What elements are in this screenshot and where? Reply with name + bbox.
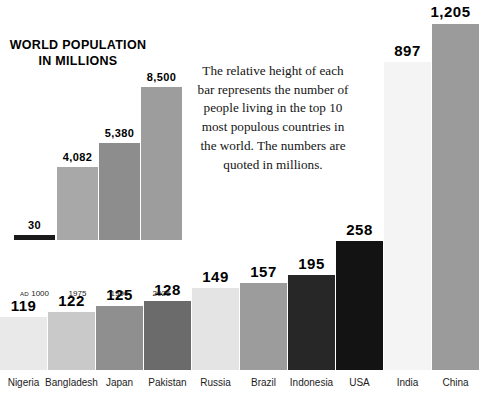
inset-bar-group-2025: 8,500 <box>141 87 182 240</box>
bar-india <box>384 62 431 370</box>
inset-axis-ad-prefix: AD <box>20 290 29 297</box>
inset-axis-label-ad1000: AD 1000 <box>8 290 61 298</box>
bar-china <box>432 24 479 370</box>
bar-japan <box>96 306 143 370</box>
bar-bangladesh <box>48 312 95 370</box>
bar-label-china: China <box>426 378 479 388</box>
bar-group-china: 1,205 China <box>432 24 479 370</box>
bar-usa <box>336 241 383 370</box>
bar-brazil <box>240 283 287 370</box>
bar-value-brazil: 157 <box>240 264 287 279</box>
bar-value-india: 897 <box>384 43 431 58</box>
bar-group-japan: 125 Japan <box>96 306 143 370</box>
bar-russia <box>192 288 239 370</box>
bar-group-bangladesh: 122 Bangladesh <box>48 312 95 370</box>
bar-group-pakistan: 128 Pakistan <box>144 301 191 370</box>
bar-pakistan <box>144 301 191 370</box>
inset-bar-2025 <box>141 87 182 240</box>
bar-nigeria <box>0 317 47 370</box>
bar-value-indonesia: 195 <box>288 256 335 271</box>
inset-bar-ad1000 <box>14 235 55 240</box>
inset-title-line-1: WORLD POPULATION <box>10 38 147 52</box>
bar-value-china: 1,205 <box>418 4 479 19</box>
inset-bar-group-ad1000: 30 <box>14 235 55 240</box>
bar-group-brazil: 157 Brazil <box>240 283 287 370</box>
bar-indonesia <box>288 275 335 370</box>
inset-axis-year-1000: 1000 <box>31 289 49 298</box>
inset-bar-1990 <box>99 143 140 240</box>
bar-group-india: 897 India <box>384 62 431 370</box>
inset-plot-area: 30 4,082 5,380 8,500 AD 1000 1975 1990 2… <box>8 84 160 240</box>
bar-value-nigeria: 119 <box>0 298 47 313</box>
inset-bar-value-ad1000: 30 <box>4 220 65 231</box>
inset-axis-label-2025: 2025 <box>141 290 182 298</box>
bar-value-russia: 149 <box>192 269 239 284</box>
inset-world-population-chart: WORLD POPULATION IN MILLIONS 30 4,082 5,… <box>8 38 160 270</box>
bar-group-russia: 149 Russia <box>192 288 239 370</box>
inset-chart-title: WORLD POPULATION IN MILLIONS <box>8 38 148 69</box>
inset-title-line-2: IN MILLIONS <box>8 54 148 70</box>
bar-value-usa: 258 <box>336 222 383 237</box>
inset-bar-group-1990: 5,380 <box>99 143 140 240</box>
inset-bar-1975 <box>57 167 98 240</box>
inset-bar-group-1975: 4,082 <box>57 167 98 240</box>
bar-group-indonesia: 195 Indonesia <box>288 275 335 370</box>
bar-group-usa: 258 USA <box>336 241 383 370</box>
bar-group-nigeria: 119 Nigeria <box>0 317 47 370</box>
inset-axis-label-1990: 1990 <box>99 290 140 298</box>
inset-bar-value-2025: 8,500 <box>131 72 192 83</box>
inset-axis-label-1975: 1975 <box>57 290 98 298</box>
caption-text: The relative height of each bar represen… <box>193 62 353 174</box>
